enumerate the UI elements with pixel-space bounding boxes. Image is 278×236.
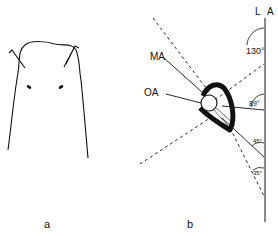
angle-45: 45° [253,138,263,144]
ma-label: MA [150,51,165,62]
dashed-line-upper-right [215,64,264,100]
tentacle-right [64,46,79,67]
eye-right [58,84,64,89]
oa-line [166,94,201,103]
angle-130: 130° [246,46,265,56]
panel-a-drawing [8,42,88,159]
axis-label-l: L [255,6,261,17]
panel-a-label: a [44,218,51,230]
tentacle-left [9,50,25,68]
panel-b-label: b [187,218,193,230]
axis-label-a: A [267,6,274,17]
diagram-canvas: L A MA OA 130° 89° 45° 35° a b [0,0,278,236]
eye-circle [201,95,217,111]
oa-label: OA [144,87,159,98]
dashed-line-lower-left [140,118,210,164]
head-outline [8,42,88,159]
arc-130 [247,28,264,45]
angle-35: 35° [253,170,263,176]
angle-89: 89° [249,100,260,107]
ma-line [164,58,203,93]
eye-left [26,84,32,89]
figure: L A MA OA 130° 89° 45° 35° a b [0,0,278,236]
